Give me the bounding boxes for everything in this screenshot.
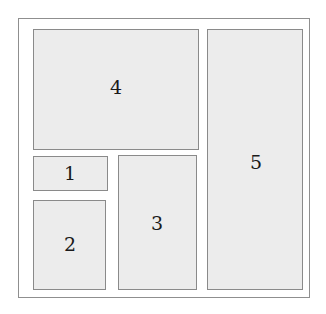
- rect-label-2: 2: [64, 235, 76, 254]
- rect-label-4: 4: [110, 78, 122, 97]
- figure-canvas: 12345: [0, 0, 326, 314]
- rect-label-5: 5: [250, 153, 262, 172]
- rect-label-3: 3: [151, 214, 163, 233]
- rect-label-1: 1: [64, 164, 76, 183]
